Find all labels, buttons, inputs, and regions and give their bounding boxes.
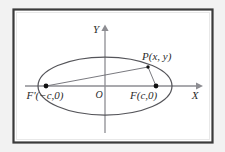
right-focus-label: F(c,0) — [129, 89, 158, 102]
figure-frame-inner-bevel — [17, 13, 210, 140]
point-p-marker — [146, 65, 149, 68]
right-focus-point-marker — [154, 84, 159, 89]
ellipse-diagram-figure: X Y O P(x, y) F(c,0) F'(−c,0) — [0, 0, 225, 152]
left-focus-point-marker — [44, 84, 49, 89]
ellipse-diagram-canvas: X Y O P(x, y) F(c,0) F'(−c,0) — [0, 0, 225, 152]
origin-label: O — [95, 89, 102, 100]
x-axis-label: X — [191, 89, 200, 101]
point-p-label: P(x, y) — [141, 50, 172, 63]
left-focus-label: F'(−c,0) — [26, 89, 64, 102]
